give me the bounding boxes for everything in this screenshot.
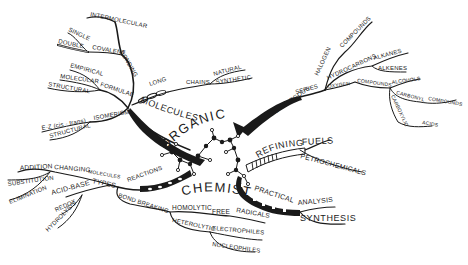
- label-halogen: HALOGEN: [313, 46, 331, 76]
- label-alcohols: ALCOHOLS: [391, 75, 421, 85]
- label-petrochemicals: PETROCHEMICALS: [300, 152, 367, 176]
- label-synthesis: SYNTHESIS: [300, 213, 356, 223]
- label-single: SINGLE: [68, 26, 92, 41]
- label-molecules: MOLECULES: [139, 95, 199, 123]
- label-elimination: ELIMINATION: [8, 184, 47, 205]
- label-chains: CHAINS: [186, 79, 210, 85]
- label-homolytic: HOMOLYTIC: [172, 204, 212, 211]
- label-acid-base: ACID-BASE: [50, 179, 90, 196]
- label-oxygen-compounds: COMPOUNDS: [357, 77, 393, 88]
- label-practical: PRACTICAL: [254, 184, 295, 203]
- label-bond-breaking: BOND BREAKING: [118, 192, 170, 214]
- label-alkenes: ALKENES: [378, 65, 407, 71]
- label-reactions: REACTIONS: [126, 165, 163, 183]
- label-long: LONG: [148, 76, 167, 87]
- label-nucleophiles: NUCLEOPHILES: [212, 241, 261, 254]
- chains-line: [168, 84, 210, 92]
- label-structural-formula: STRUCTURAL: [48, 81, 91, 94]
- label-fuels: FUELS: [302, 135, 334, 147]
- analysis-line: [300, 207, 335, 212]
- label-molecular: MOLECULAR: [60, 73, 100, 84]
- label-substitution: SUBSTITUTION: [7, 175, 54, 187]
- label-halogen-compounds: COMPOUNDS: [338, 15, 372, 49]
- branch-molecules: [42, 17, 252, 166]
- label-covalent: COVALENT: [92, 44, 126, 56]
- label-synthetic: SYNTHETIC: [215, 74, 252, 85]
- label-oxygen: OXYGEN: [327, 80, 350, 89]
- label-formulae: FORMULAE: [100, 81, 135, 98]
- label-types: TYPES: [92, 177, 117, 189]
- mind-map: ORGANIC CHEMISTRY MOLECULES REFINING INT…: [0, 0, 468, 265]
- label-carboxylic: CARBOXYLIC: [390, 94, 410, 128]
- label-carbonyl-compounds: COMPOUNDS: [428, 95, 464, 107]
- label-free: FREE: [212, 208, 231, 215]
- label-intermolecular: INTERMOLECULAR: [90, 11, 149, 29]
- label-addition: ADDITION: [20, 162, 53, 171]
- label-changing: CHANGING: [54, 163, 91, 173]
- label-analysis: ANALYSIS: [297, 196, 333, 206]
